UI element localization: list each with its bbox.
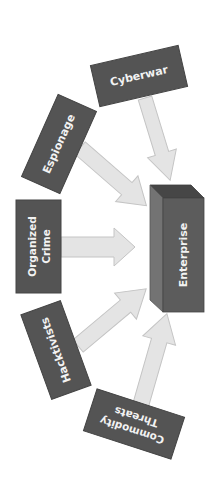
arrow-hacktivists-to-enterprise: [67, 276, 157, 359]
enterprise-block: Enterprise: [150, 185, 204, 312]
arrow-cyberwar-to-enterprise: [131, 94, 185, 185]
arrow-espionage-to-enterprise: [69, 135, 158, 218]
enterprise-label: Enterprise: [177, 223, 190, 288]
organized-crime-label-line2: Crime: [40, 229, 52, 264]
threat-diagram: Enterprise Cyberwar Espionage Organized …: [0, 0, 221, 490]
source-box-organized-crime: Organized Crime: [16, 200, 61, 293]
source-box-cyberwar: Cyberwar: [90, 45, 187, 106]
arrow-organized-crime-to-enterprise: [61, 228, 135, 266]
arrow-commodity-threats-to-enterprise: [125, 309, 184, 409]
enterprise-side-face: [150, 185, 163, 312]
organized-crime-label-line1: Organized: [26, 216, 38, 277]
source-box-hacktivists: Hacktivists: [21, 301, 91, 400]
